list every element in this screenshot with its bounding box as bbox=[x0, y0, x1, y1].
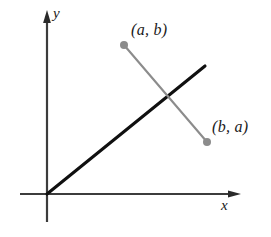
point-b-a-dot bbox=[203, 138, 211, 146]
line-y-equals-x bbox=[47, 66, 205, 194]
point-a-b-dot bbox=[120, 41, 128, 49]
point-a-b-label: (a, b) bbox=[131, 21, 167, 39]
reflection-segment bbox=[124, 45, 207, 142]
figure-canvas: (a, b) (b, a) x y bbox=[0, 0, 271, 237]
point-b-a-label: (b, a) bbox=[212, 118, 248, 136]
y-axis-label: y bbox=[53, 5, 60, 22]
y-axis-arrowhead bbox=[43, 10, 51, 23]
x-axis-label: x bbox=[221, 197, 228, 214]
x-axis-arrowhead bbox=[228, 190, 241, 197]
